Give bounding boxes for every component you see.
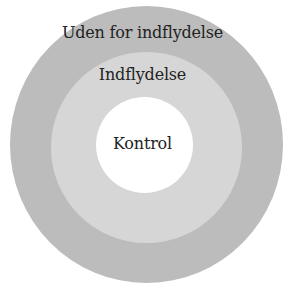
circles-of-control-diagram: Uden for indflydelse Indflydelse Kontrol: [0, 0, 285, 291]
outer-ring-label: Uden for indflydelse: [0, 23, 285, 42]
inner-circle-label: Kontrol: [0, 134, 285, 153]
middle-ring-label: Indflydelse: [0, 65, 285, 84]
